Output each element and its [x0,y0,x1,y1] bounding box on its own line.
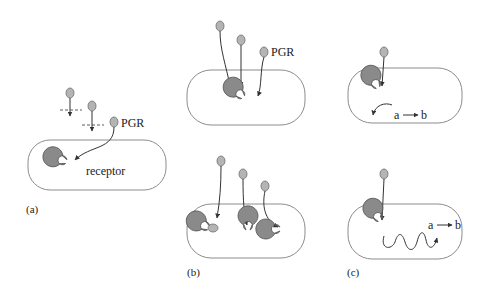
pgr-label-b: PGR [271,45,294,59]
panel-label-a: (a) [26,203,39,216]
reaction-a-bottom: a [428,218,434,232]
pgr-label-a: PGR [121,116,144,130]
reaction-b-top: b [421,108,427,122]
panel-c-top: a b [348,47,462,123]
reaction-b-bottom: b [455,218,461,232]
receptor-label: receptor [86,164,125,178]
blocked-ligand-1 [60,88,82,116]
panel-b-top: PGR [187,21,305,125]
panel-label-c: (c) [347,266,360,279]
blocked-ligand-2 [82,101,104,131]
cell-b-top [187,70,305,125]
panel-c-bottom: a b (c) [347,169,462,279]
panel-b-bottom: (b) [183,156,305,279]
panel-a: PGR receptor (a) [26,88,166,216]
panel-label-b: (b) [187,266,200,279]
receptor-binding-diagram: PGR receptor (a) PGR [0,0,496,301]
reaction-a-top: a [394,108,400,122]
